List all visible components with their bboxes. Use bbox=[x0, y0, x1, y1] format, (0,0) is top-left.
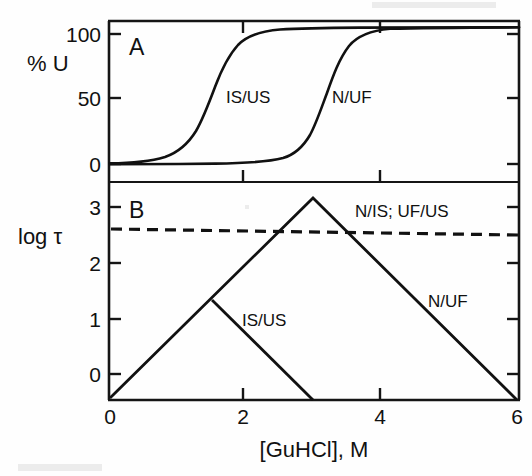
curve-a-is-us bbox=[110, 27, 519, 163]
scan-artifact-top bbox=[372, 2, 496, 8]
curve-label-b-dashed: N/IS; UF/US bbox=[355, 202, 449, 221]
tick-label-x-2: 2 bbox=[237, 405, 249, 428]
figure-root: 100 50 0 % U A IS/US N/UF bbox=[0, 0, 532, 476]
tick-label-b-y-3: 3 bbox=[89, 196, 101, 219]
panel-b-y-ticks bbox=[109, 207, 121, 374]
curve-a-n-uf bbox=[110, 27, 519, 164]
tick-label-x-4: 4 bbox=[374, 405, 386, 428]
tick-label-b-y-1: 1 bbox=[89, 308, 101, 331]
curve-label-a-is-us: IS/US bbox=[226, 88, 270, 107]
panel-letter-a: A bbox=[129, 34, 145, 60]
kinetics-figure-svg: 100 50 0 % U A IS/US N/UF bbox=[0, 0, 532, 476]
panel-a-y-axis-title: % U bbox=[27, 51, 69, 76]
tick-label-a-y-50: 50 bbox=[78, 87, 101, 110]
tick-label-x-6: 6 bbox=[511, 405, 523, 428]
panel-b-frame bbox=[108, 182, 520, 400]
panel-a-y-ticks bbox=[109, 34, 121, 164]
tick-label-b-y-0: 0 bbox=[89, 363, 101, 386]
x-axis-title: [GuHCl], M bbox=[260, 437, 369, 462]
scan-artifact-bottom bbox=[18, 464, 102, 471]
tick-label-b-y-2: 2 bbox=[89, 252, 101, 275]
curve-label-a-n-uf: N/UF bbox=[332, 88, 372, 107]
panel-a-frame bbox=[108, 21, 520, 182]
scan-artifact-panel-b bbox=[245, 205, 249, 209]
panel-divider-ticks bbox=[243, 170, 380, 182]
panel-a-y-ticks-right bbox=[507, 34, 519, 164]
panel-b-y-ticks-right bbox=[507, 207, 519, 374]
curve-label-b-n-uf: N/UF bbox=[428, 292, 468, 311]
curve-label-b-is-us: IS/US bbox=[242, 311, 286, 330]
tick-label-a-y-0: 0 bbox=[89, 153, 101, 176]
tick-label-x-0: 0 bbox=[104, 405, 116, 428]
tick-label-a-y-100: 100 bbox=[66, 23, 101, 46]
panel-b-y-axis-title: log τ bbox=[18, 224, 62, 249]
line-b-dashed-n-is-uf-us bbox=[111, 229, 518, 235]
panel-letter-b: B bbox=[129, 197, 144, 223]
